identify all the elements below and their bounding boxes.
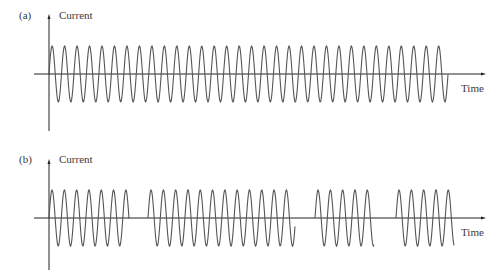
waveform-diagram bbox=[0, 0, 499, 270]
panel-b-label: (b) bbox=[19, 153, 32, 165]
panel-b bbox=[34, 159, 486, 270]
panel-b-x-arrow-icon bbox=[481, 217, 486, 220]
panel-b-x-axis-label: Time bbox=[461, 226, 484, 238]
panel-a-x-axis-label: Time bbox=[461, 82, 484, 94]
panel-a bbox=[34, 14, 486, 131]
panel-a-label: (a) bbox=[19, 9, 31, 21]
panel-b-y-axis-label: Current bbox=[59, 153, 93, 165]
panel-a-y-axis-label: Current bbox=[59, 9, 93, 21]
figure: (a) Current Time (b) Current Time bbox=[0, 0, 499, 270]
panel-a-y-arrow-icon bbox=[48, 14, 51, 19]
panel-a-x-arrow-icon bbox=[481, 73, 486, 76]
panel-b-y-arrow-icon bbox=[48, 159, 51, 164]
